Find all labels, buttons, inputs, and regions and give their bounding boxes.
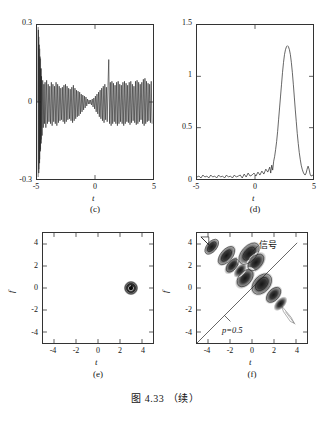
panel-e-ytick-3: -2 — [16, 306, 38, 314]
panel-c-xaxis-label: t — [92, 193, 95, 203]
figure-4-33: 0.3 0 -0.3 -5 0 5 t (c) 1.5 — [0, 0, 330, 422]
panel-e-xaxis-label: t — [95, 357, 98, 367]
panel-e-xtick-2: 0 — [88, 347, 108, 355]
panel-e-yaxis-label: f — [6, 283, 16, 293]
panel-f-subcaption: (f) — [222, 369, 282, 379]
panel-f-yaxis-label: f — [160, 283, 170, 293]
panel-c-plot-area — [36, 24, 154, 180]
panel-e-ytick-0: 4 — [20, 239, 38, 247]
panel-e-plot-area — [42, 232, 154, 344]
panel-f-xtick-4: 4 — [287, 347, 307, 355]
panel-e-subcaption: (e) — [68, 369, 128, 379]
panel-d-ytick-0: 1.5 — [166, 19, 192, 27]
panel-f-ytick-2: 0 — [174, 284, 192, 292]
panel-f-plot-area — [196, 232, 308, 344]
panel-c-ytick-0: 0.3 — [8, 19, 32, 27]
panel-c-ytick-1: 0 — [8, 98, 32, 106]
panel-d-plot-area — [196, 24, 314, 180]
figure-caption-suffix: （续） — [168, 393, 200, 404]
panel-d-subcaption: (d) — [225, 204, 285, 214]
panel-c-xtick-2: 5 — [144, 183, 164, 191]
panel-f-ytick-3: -2 — [170, 306, 192, 314]
panel-e-chart — [43, 233, 153, 343]
panel-f-signal-annotation: 信号 — [259, 238, 277, 251]
panel-e-xtick-4: 4 — [133, 347, 153, 355]
panel-d-xtick-2: 5 — [304, 183, 324, 191]
panel-f-order-annotation: p=0.5 — [222, 325, 243, 335]
figure-caption-prefix: 图 — [131, 393, 142, 404]
panel-d-xaxis-label: t — [252, 193, 255, 203]
panel-f-xaxis-label: t — [249, 357, 252, 367]
panel-c-chart — [37, 25, 153, 179]
panel-e-ytick-4: -4 — [16, 329, 38, 337]
panel-f-xtick-3: 2 — [264, 347, 284, 355]
panel-f-xtick-2: 0 — [242, 347, 262, 355]
panel-f-ytick-0: 4 — [174, 239, 192, 247]
panel-e-xtick-3: 2 — [110, 347, 130, 355]
panel-f-order-annotation-text: p=0.5 — [222, 325, 243, 335]
panel-f-xtick-0: -4 — [197, 347, 217, 355]
panel-f-xtick-1: -2 — [220, 347, 240, 355]
panel-d-chart — [197, 25, 313, 179]
panel-f-chart — [197, 233, 307, 343]
figure-caption-number: 4.33 — [145, 393, 165, 404]
panel-e-ytick-1: 2 — [20, 262, 38, 270]
panel-d-ytick-2: 0.5 — [166, 123, 192, 131]
panel-e-xtick-1: -2 — [66, 347, 86, 355]
panel-d-xtick-1: 0 — [245, 183, 265, 191]
panel-c-xtick-1: 0 — [85, 183, 105, 191]
panel-e-xtick-0: -4 — [43, 347, 63, 355]
panel-e-ytick-2: 0 — [20, 284, 38, 292]
panel-f-ytick-4: -4 — [170, 329, 192, 337]
panel-d-ytick-1: 1 — [166, 71, 192, 79]
panel-c-xtick-0: -5 — [26, 183, 46, 191]
panel-d-xtick-0: -5 — [186, 183, 206, 191]
panel-c-subcaption: (c) — [65, 204, 125, 214]
figure-caption: 图 4.33 （续） — [0, 390, 330, 405]
panel-f-ytick-1: 2 — [174, 262, 192, 270]
